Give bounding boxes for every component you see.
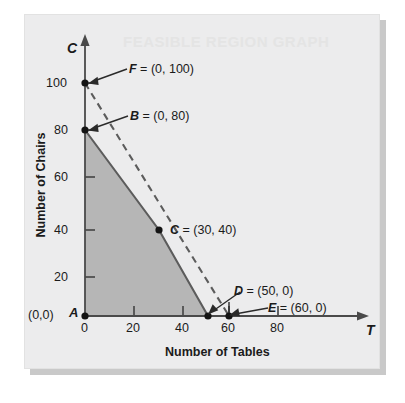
- figure-card: FEASIBLE REGION GRAPH: [24, 14, 380, 369]
- y-axis-symbol: C: [67, 40, 77, 56]
- figure-stage: FEASIBLE REGION GRAPH: [0, 0, 405, 403]
- x-tick-label-20: 20: [126, 321, 140, 335]
- point-marker-C: [155, 226, 162, 233]
- y-tick-label-20: 20: [54, 270, 68, 284]
- leader-B-arrowhead: [88, 124, 99, 132]
- point-marker-B: [81, 126, 88, 133]
- leader-F: [94, 69, 127, 81]
- y-tick-label-80: 80: [54, 123, 68, 137]
- x-tick-label-40: 40: [175, 321, 189, 335]
- point-marker-D: [204, 312, 211, 319]
- y-axis-arrowhead: [80, 34, 89, 46]
- y-tick-label-40: 40: [54, 223, 68, 237]
- leader-E-arrowhead: [229, 308, 240, 316]
- x-tick-label-60: 60: [221, 321, 235, 335]
- leader-F-arrowhead: [88, 77, 99, 85]
- point-marker-E: [225, 312, 232, 319]
- annotation-E: E = (60, 0): [268, 301, 327, 315]
- y-axis-title: Number of Chairs: [34, 130, 48, 240]
- leader-D-arrowhead: [208, 304, 218, 314]
- annotation-D: D = (50, 0): [234, 284, 293, 298]
- annotation-C: C = (30, 40): [170, 223, 236, 237]
- x-tick-label-80: 80: [270, 321, 284, 335]
- x-axis-title: Number of Tables: [165, 345, 270, 359]
- x-axis-arrowhead: [357, 311, 369, 320]
- leader-E: [235, 308, 268, 314]
- y-tick-label-100: 100: [46, 76, 67, 90]
- x-axis-symbol: T: [366, 322, 375, 338]
- x-tick-label-0: 0: [81, 321, 88, 335]
- vertex-label-A: A: [69, 305, 78, 320]
- y-tick-label-60: 60: [54, 170, 68, 184]
- origin-label: (0,0): [28, 308, 54, 322]
- point-marker-F: [81, 79, 88, 86]
- point-marker-A: [81, 312, 88, 319]
- annotation-B: B = (0, 80): [130, 109, 189, 123]
- annotation-F: F = (0, 100): [129, 62, 194, 76]
